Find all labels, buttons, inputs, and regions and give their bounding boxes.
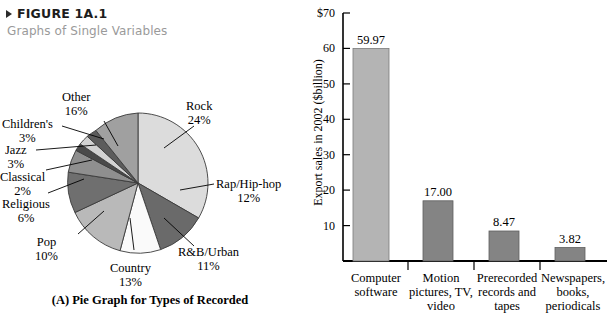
pie-label-classical-pct: 2%: [0, 185, 45, 199]
pie-label-jazz-name: Jazz: [5, 143, 27, 157]
pie-label-childrens-name: Children's: [2, 117, 53, 131]
category-label-line-3: periodicals: [539, 299, 607, 313]
x-axis-separators: [408, 261, 540, 270]
pie-label-country-pct: 13%: [110, 276, 151, 290]
category-label-prerecorded-records: Prerecorded records and tapes: [473, 271, 541, 313]
category-label-line-1: Prerecorded: [473, 271, 541, 285]
pie-label-religious-pct: 6%: [2, 212, 50, 226]
pie-chart-panel: Other 16% Children's 3% Jazz 3% Classica…: [0, 78, 300, 314]
pie-label-other: Other 16%: [62, 91, 90, 118]
bar-chart-panel: Export sales in 2002 ($billion) $70 60 5…: [296, 0, 607, 314]
pie-chart-caption: (A) Pie Graph for Types of Recorded: [0, 293, 300, 308]
bar-prerecorded-records-and-tapes: [489, 231, 519, 261]
pie-label-rnb-urban-pct: 11%: [178, 260, 239, 274]
pie-label-country: Country 13%: [110, 262, 151, 289]
category-label-line-2: records and: [473, 285, 541, 299]
figure-number: FIGURE 1A.1: [17, 6, 107, 21]
category-label-newspapers-books: Newspapers, books, periodicals: [539, 271, 607, 313]
pie-label-classical: Classical 2%: [0, 171, 45, 198]
y-tick-label-60: 60: [301, 41, 335, 56]
pie-label-pop-pct: 10%: [35, 250, 58, 264]
pie-label-rap-hip-hop-name: Rap/Hip-hop: [216, 177, 281, 191]
y-tick-label-20: 20: [301, 183, 335, 198]
category-label-line-1: Motion: [407, 271, 475, 285]
category-label-line-2: books,: [539, 285, 607, 299]
bar-value-motion-pictures: 17.00: [408, 185, 468, 200]
y-tick-label-40: 40: [301, 112, 335, 127]
triangle-right-icon: [6, 10, 12, 18]
figure-subtitle: Graphs of Single Variables: [7, 24, 256, 38]
figure-title-line: FIGURE 1A.1: [6, 6, 256, 21]
pie-label-pop: Pop 10%: [35, 236, 58, 263]
bar-value-prerecorded-records: 8.47: [474, 215, 534, 230]
pie-label-rock: Rock 24%: [186, 100, 212, 127]
y-tick-label-50: 50: [301, 77, 335, 92]
pie-label-jazz: Jazz 3%: [5, 144, 27, 171]
bar-newspapers-books-periodicals: [555, 248, 585, 262]
pie-label-rap-hip-hop: Rap/Hip-hop 12%: [216, 178, 281, 205]
y-tick-label-30: 30: [301, 148, 335, 163]
pie-label-other-pct: 16%: [62, 105, 90, 119]
bar-value-newspapers-books: 3.82: [540, 232, 600, 247]
pie-label-country-name: Country: [110, 261, 151, 275]
category-label-line-1: Newspapers,: [539, 271, 607, 285]
pie-label-pop-name: Pop: [37, 235, 56, 249]
bars: [353, 49, 585, 262]
pie-label-childrens: Children's 3%: [2, 118, 53, 145]
pie-label-jazz-pct: 3%: [5, 158, 27, 172]
category-label-line-1: Computer: [343, 271, 409, 285]
bar-motion-pictures-tv-video: [423, 201, 453, 261]
figure-header: FIGURE 1A.1 Graphs of Single Variables: [6, 6, 256, 38]
pie-label-religious: Religious 6%: [2, 198, 50, 225]
category-label-line-2: software: [343, 285, 409, 299]
pie-label-rock-name: Rock: [186, 99, 212, 113]
pie-label-classical-name: Classical: [0, 170, 45, 184]
y-tick-label-70: $70: [301, 6, 335, 21]
pie-label-religious-name: Religious: [2, 197, 50, 211]
pie-label-rock-pct: 24%: [186, 114, 212, 128]
bar-value-computer-software: 59.97: [341, 33, 401, 48]
y-tick-label-10: 10: [301, 219, 335, 234]
pie-label-other-name: Other: [62, 90, 90, 104]
pie-label-rnb-urban: R&B/Urban 11%: [178, 246, 239, 273]
pie-label-rap-hip-hop-pct: 12%: [216, 192, 281, 206]
category-label-line-2: pictures, TV,: [407, 285, 475, 299]
category-label-computer-software: Computer software: [343, 271, 409, 299]
category-label-motion-pictures: Motion pictures, TV, video: [407, 271, 475, 313]
category-label-line-3: video: [407, 299, 475, 313]
category-label-line-3: tapes: [473, 299, 541, 313]
pie-label-rnb-urban-name: R&B/Urban: [178, 245, 239, 259]
bar-computer-software: [353, 49, 389, 262]
